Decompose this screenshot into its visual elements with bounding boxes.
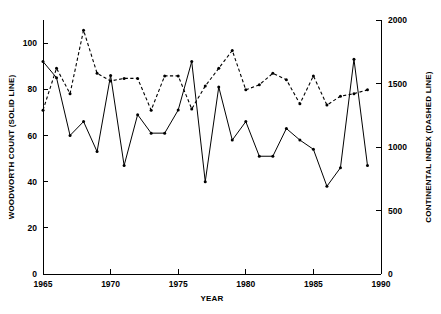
woodworth-count-point — [339, 166, 342, 169]
y-axis-right-tick-label: 1500 — [388, 79, 407, 89]
x-axis-tick-label: 1975 — [169, 279, 188, 289]
woodworth-count-point — [109, 74, 112, 77]
woodworth-count-point — [244, 120, 247, 123]
woodworth-count-point — [298, 139, 301, 142]
continental-index-point — [190, 107, 193, 110]
chart-figure: 1965197019751980198519900204060801000500… — [0, 0, 441, 314]
series-continental-index — [42, 29, 369, 112]
tick-labels-group: 1965197019751980198519900204060801000500… — [23, 15, 407, 289]
x-axis-title: YEAR — [200, 294, 223, 303]
woodworth-count-point — [96, 150, 99, 153]
y-axis-left-tick-label: 80 — [28, 84, 38, 94]
y-axis-left-tick-label: 40 — [28, 177, 38, 187]
y-axis-left-tick-label: 20 — [28, 223, 38, 233]
x-axis-tick-label: 1970 — [101, 279, 120, 289]
continental-index-point — [136, 77, 139, 80]
y-axis-right-tick-label: 0 — [388, 269, 393, 279]
continental-index-point — [244, 88, 247, 91]
woodworth-count-point — [366, 164, 369, 167]
continental-index-point — [42, 109, 45, 112]
continental-index-point — [150, 109, 153, 112]
y-axis-right-tick-label: 1000 — [388, 142, 407, 152]
woodworth-count-point — [82, 120, 85, 123]
continental-index-line — [43, 30, 367, 110]
line-chart-canvas: 1965197019751980198519900204060801000500… — [0, 0, 441, 314]
x-axis-tick-label: 1965 — [34, 279, 53, 289]
continental-index-point — [177, 74, 180, 77]
continental-index-point — [366, 88, 369, 91]
woodworth-count-point — [258, 155, 261, 158]
woodworth-count-point — [42, 60, 45, 63]
continental-index-point — [82, 29, 85, 32]
woodworth-count-point — [55, 76, 58, 79]
continental-index-point — [352, 92, 355, 95]
woodworth-count-point — [352, 58, 355, 61]
woodworth-count-point — [204, 180, 207, 183]
continental-index-point — [163, 74, 166, 77]
continental-index-point — [258, 83, 261, 86]
woodworth-count-point — [325, 185, 328, 188]
woodworth-count-point — [190, 60, 193, 63]
x-axis-tick-label: 1980 — [236, 279, 255, 289]
continental-index-point — [69, 92, 72, 95]
y-axis-right-title: CONTINENTAL INDEX (DASHED LINE) — [424, 71, 433, 222]
woodworth-count-point — [123, 164, 126, 167]
woodworth-count-point — [217, 85, 220, 88]
continental-index-point — [325, 104, 328, 107]
continental-index-point — [339, 95, 342, 98]
continental-index-point — [123, 77, 126, 80]
continental-index-point — [55, 67, 58, 70]
continental-index-point — [285, 78, 288, 81]
woodworth-count-point — [285, 127, 288, 130]
woodworth-count-point — [312, 148, 315, 151]
woodworth-count-point — [231, 139, 234, 142]
series-woodworth-count — [42, 58, 369, 188]
continental-index-point — [231, 49, 234, 52]
x-axis-tick-label: 1985 — [304, 279, 323, 289]
y-axis-left-tick-label: 100 — [23, 38, 37, 48]
axis-titles-group: YEARWOODWORTH COUNT (SOLID LINE)CONTINEN… — [7, 71, 433, 303]
y-axis-left-title: WOODWORTH COUNT (SOLID LINE) — [7, 75, 16, 220]
woodworth-count-point — [177, 109, 180, 112]
ticks-group — [43, 20, 381, 274]
woodworth-count-point — [150, 132, 153, 135]
y-axis-right-tick-label: 2000 — [388, 15, 407, 25]
continental-index-point — [312, 74, 315, 77]
x-axis-tick-label: 1990 — [372, 279, 391, 289]
y-axis-left-tick-label: 60 — [28, 131, 38, 141]
y-axis-right-tick-label: 500 — [388, 206, 402, 216]
woodworth-count-point — [271, 155, 274, 158]
continental-index-point — [271, 72, 274, 75]
woodworth-count-point — [136, 113, 139, 116]
woodworth-count-point — [163, 132, 166, 135]
continental-index-point — [217, 67, 220, 70]
y-axis-left-tick-label: 0 — [32, 269, 37, 279]
continental-index-point — [204, 85, 207, 88]
axes-group — [43, 20, 381, 274]
continental-index-point — [298, 102, 301, 105]
woodworth-count-line — [43, 59, 367, 186]
woodworth-count-point — [69, 134, 72, 137]
continental-index-point — [96, 72, 99, 75]
